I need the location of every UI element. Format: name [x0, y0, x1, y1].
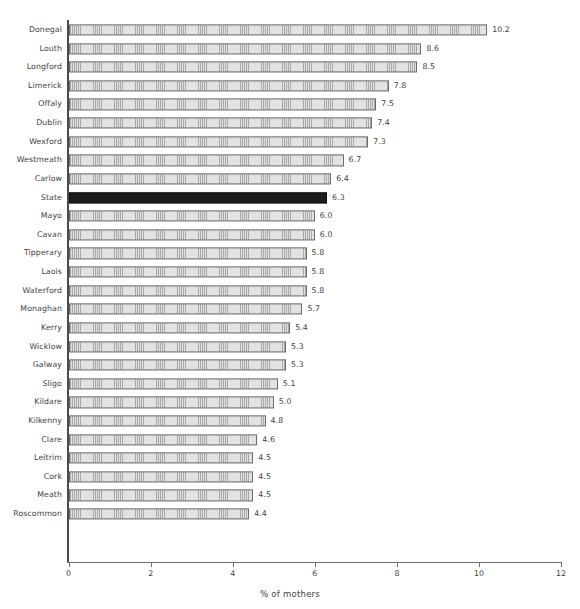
- bar-row: Cork4.5: [0, 468, 580, 487]
- bar-row: Carlow6.4: [0, 170, 580, 189]
- category-label: State: [41, 194, 62, 202]
- bar-value-label: 8.6: [426, 45, 439, 53]
- category-label: Dublin: [36, 119, 62, 127]
- plot-area: Donegal10.2Louth8.6Longford8.5Limerick7.…: [0, 0, 580, 609]
- category-label: Kerry: [41, 324, 62, 332]
- bar-value-label: 5.1: [283, 380, 296, 388]
- category-label: Laois: [41, 268, 62, 276]
- bar-value-label: 6.0: [320, 231, 333, 239]
- x-axis-tick-label: 10: [474, 570, 484, 578]
- bar-value-label: 6.3: [332, 194, 345, 202]
- bar[interactable]: [69, 248, 307, 259]
- category-label: Carlow: [35, 175, 62, 183]
- x-axis-tick: [233, 562, 234, 567]
- bar-value-label: 5.8: [312, 250, 325, 258]
- category-label: Clare: [41, 436, 62, 444]
- bar-row: Limerick7.8: [0, 77, 580, 96]
- bar-value-label: 8.5: [422, 63, 435, 71]
- bar-row: State6.3: [0, 188, 580, 207]
- x-axis-tick-label: 4: [230, 570, 235, 578]
- bar-value-label: 6.0: [320, 212, 333, 220]
- category-label: Cavan: [37, 231, 62, 239]
- bar-value-label: 4.6: [262, 436, 275, 444]
- bar-value-label: 4.4: [254, 510, 267, 518]
- bar-row: Cavan6.0: [0, 226, 580, 245]
- bar-row: Offaly7.5: [0, 95, 580, 114]
- x-axis-tick-label: 2: [148, 570, 153, 578]
- bar-value-label: 7.4: [377, 119, 390, 127]
- bar-row: Tipperary5.8: [0, 244, 580, 263]
- bar[interactable]: [69, 509, 250, 520]
- bar-row: Dublin7.4: [0, 114, 580, 133]
- bar-value-label: 4.5: [258, 473, 271, 481]
- bar-value-label: 4.5: [258, 492, 271, 500]
- bar[interactable]: [69, 490, 254, 501]
- category-label: Waterford: [23, 287, 62, 295]
- bar[interactable]: [69, 62, 418, 73]
- x-axis-title: % of mothers: [0, 589, 580, 599]
- bar[interactable]: [69, 304, 303, 315]
- bar[interactable]: [69, 136, 369, 147]
- bar[interactable]: [69, 378, 278, 389]
- bar-row: Mayo6.0: [0, 207, 580, 226]
- bar[interactable]: [69, 24, 488, 35]
- x-axis-tick: [69, 562, 70, 567]
- bar-row: Galway5.3: [0, 356, 580, 375]
- bar-row: Kildare5.0: [0, 393, 580, 412]
- bar[interactable]: [69, 43, 422, 54]
- category-label: Wicklow: [29, 343, 62, 351]
- bar[interactable]: [69, 118, 373, 129]
- bar-row: Kerry5.4: [0, 319, 580, 338]
- y-axis-line: [67, 20, 69, 563]
- category-label: Meath: [37, 492, 62, 500]
- category-label: Tipperary: [24, 250, 62, 258]
- bar[interactable]: [69, 471, 254, 482]
- bar-value-label: 5.4: [295, 324, 308, 332]
- bar[interactable]: [69, 415, 266, 426]
- bar-row: Monaghan5.7: [0, 300, 580, 319]
- category-label: Sligo: [42, 380, 62, 388]
- bar[interactable]: [69, 397, 274, 408]
- bar[interactable]: [69, 192, 328, 203]
- bar[interactable]: [69, 99, 377, 110]
- x-axis-tick-label: 6: [312, 570, 317, 578]
- bar-value-label: 5.7: [307, 305, 320, 313]
- bar[interactable]: [69, 211, 315, 222]
- bar[interactable]: [69, 266, 307, 277]
- bar-value-label: 4.5: [258, 454, 271, 462]
- bar-value-label: 5.0: [279, 398, 292, 406]
- category-label: Wexford: [29, 138, 62, 146]
- category-label: Louth: [40, 45, 62, 53]
- category-label: Mayo: [41, 212, 62, 220]
- bar-row: Clare4.6: [0, 430, 580, 449]
- bar-row: Kilkenny4.8: [0, 412, 580, 431]
- bar[interactable]: [69, 229, 315, 240]
- bar-row: Roscommon4.4: [0, 505, 580, 524]
- bar[interactable]: [69, 322, 291, 333]
- bar-row: Leitrim4.5: [0, 449, 580, 468]
- x-axis-tick-label: 12: [556, 570, 566, 578]
- bar-value-label: 5.8: [312, 268, 325, 276]
- bar-row: Laois5.8: [0, 263, 580, 282]
- x-axis-tick: [315, 562, 316, 567]
- bar-value-label: 10.2: [492, 26, 510, 34]
- x-axis-tick: [397, 562, 398, 567]
- bar-value-label: 6.7: [349, 156, 362, 164]
- bar[interactable]: [69, 285, 307, 296]
- bar[interactable]: [69, 173, 332, 184]
- bar-value-label: 7.5: [381, 101, 394, 109]
- category-label: Kildare: [34, 398, 62, 406]
- bar[interactable]: [69, 155, 344, 166]
- bar[interactable]: [69, 341, 286, 352]
- category-label: Leitrim: [34, 454, 62, 462]
- bar-row: Wicklow5.3: [0, 337, 580, 356]
- bar[interactable]: [69, 434, 258, 445]
- category-label: Monaghan: [20, 305, 62, 313]
- bar[interactable]: [69, 453, 254, 464]
- bar-row: Longford8.5: [0, 58, 580, 77]
- bar-value-label: 6.4: [336, 175, 349, 183]
- bar[interactable]: [69, 360, 286, 371]
- category-label: Offaly: [38, 101, 62, 109]
- x-axis-tick-label: 8: [394, 570, 399, 578]
- bar[interactable]: [69, 80, 389, 91]
